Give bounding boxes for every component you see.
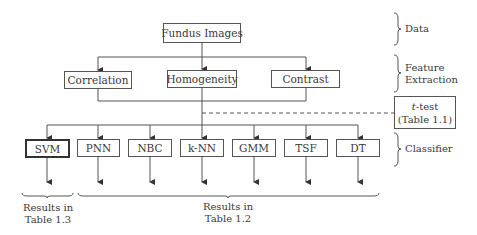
fundus-images-box: Fundus Images bbox=[163, 23, 241, 43]
results-svm-label: Results in Table 1.3 bbox=[12, 202, 84, 226]
classifier-pnn-box: PNN bbox=[77, 139, 120, 157]
classifier-svm-box: SVM bbox=[25, 139, 70, 158]
brace-feature bbox=[394, 55, 401, 92]
stage-label-feature-line2: Extraction bbox=[405, 74, 458, 86]
stage-label-feature-line1: Feature bbox=[405, 62, 458, 74]
brace-results-others bbox=[78, 193, 379, 198]
classifier-gmm-box: GMM bbox=[232, 139, 276, 157]
classifier-dt-box: DT bbox=[336, 139, 380, 157]
t-test-ref: (Table 1.1) bbox=[398, 113, 452, 126]
classifier-nbc-box: NBC bbox=[128, 139, 172, 157]
feature-contrast-box: Contrast bbox=[271, 70, 340, 88]
brace-results-svm bbox=[22, 193, 73, 198]
t-test-label: t-test bbox=[412, 100, 439, 113]
stage-label-classifier: Classifier bbox=[405, 143, 453, 155]
feature-correlation-box: Correlation bbox=[64, 71, 132, 89]
results-others-line1: Results in bbox=[190, 201, 266, 213]
classifier-knn-box: k-NN bbox=[180, 139, 224, 157]
results-svm-line1: Results in bbox=[12, 202, 84, 214]
stage-label-data: Data bbox=[405, 23, 429, 35]
feature-homogeneity-box: Homogeneity bbox=[167, 70, 237, 88]
classifier-tsf-box: TSF bbox=[284, 139, 328, 157]
results-others-label: Results in Table 1.2 bbox=[190, 201, 266, 225]
brace-classifier bbox=[394, 133, 401, 166]
t-test-box: t-test (Table 1.1) bbox=[394, 96, 456, 129]
stage-label-feature-extraction: Feature Extraction bbox=[405, 62, 458, 86]
results-svm-line2: Table 1.3 bbox=[12, 214, 84, 226]
results-others-line2: Table 1.2 bbox=[190, 213, 266, 225]
brace-data bbox=[394, 13, 401, 45]
